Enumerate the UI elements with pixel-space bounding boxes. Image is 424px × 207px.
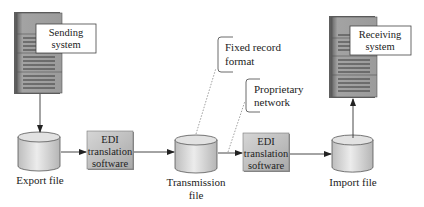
import-file: Import file (329, 135, 376, 188)
edi-left-label-line1: EDI (101, 134, 119, 145)
edi-translation-software-right: EDI translation software (243, 133, 290, 172)
callout-leader (228, 101, 245, 152)
callout-proprietary-line1: Proprietary (254, 83, 304, 95)
transmission-file-label-line2: file (189, 189, 204, 201)
callout-leader (196, 68, 216, 134)
export-file: Export file (16, 132, 63, 186)
receiving-system-label-line2: system (365, 41, 394, 52)
edi-right-label-line3: software (248, 160, 284, 171)
sending-system-label-line2: system (51, 39, 80, 50)
edi-left-label-line3: software (92, 158, 128, 169)
export-file-label: Export file (16, 174, 63, 186)
sending-system-label-line1: Sending (49, 27, 84, 38)
edi-right-label-line2: translation (244, 148, 289, 159)
callout-fixed-record-line2: format (225, 55, 254, 67)
import-file-label: Import file (329, 176, 376, 188)
edi-right-label-line1: EDI (257, 136, 275, 147)
edi-left-label-line2: translation (88, 146, 133, 157)
transmission-file: Transmission file (167, 135, 226, 201)
receiving-system: Receiving system (329, 16, 411, 98)
database-cylinder-icon (18, 132, 60, 171)
database-cylinder-icon (175, 135, 217, 173)
receiving-system-label-line1: Receiving (359, 29, 402, 40)
callout-fixed-record-line1: Fixed record (225, 41, 281, 53)
database-cylinder-icon (332, 135, 373, 172)
edi-diagram: Sending system Receiving system (0, 0, 424, 207)
edi-translation-software-left: EDI translation software (87, 131, 134, 170)
transmission-file-label-line1: Transmission (167, 176, 226, 188)
sending-system: Sending system (14, 12, 96, 94)
callout-proprietary-line2: network (254, 96, 291, 108)
